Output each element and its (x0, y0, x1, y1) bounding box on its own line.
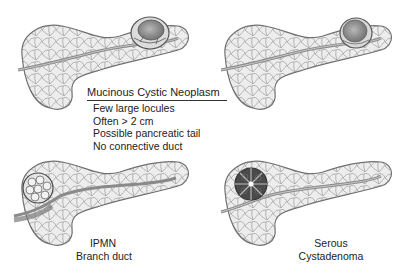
mcn-feature: Often > 2 cm (93, 115, 200, 128)
serous-sublabel: Cystadenoma (291, 250, 371, 263)
serous-label: Serous (301, 237, 361, 250)
mcn-feature: Few large locules (93, 102, 200, 115)
grape-cluster-cyst-icon (23, 173, 53, 203)
ipmn-sublabel: Branch duct (64, 250, 144, 263)
panel-ipmn-branch-duct: IPMN Branch duct (0, 136, 205, 273)
panel-tail-cyst (203, 0, 408, 137)
unilocular-cyst-icon (340, 18, 372, 48)
panel-serous-cystadenoma: Serous Cystadenoma (203, 136, 408, 273)
mucinous-cyst-icon (131, 17, 169, 49)
ipmn-label: IPMN (78, 237, 128, 250)
pancreas-illustration (203, 0, 408, 137)
microcystic-central-scar-icon (235, 168, 267, 200)
